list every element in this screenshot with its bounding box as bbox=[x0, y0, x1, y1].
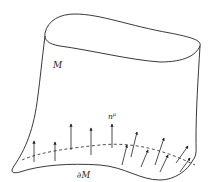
normal-label: nμ bbox=[108, 111, 116, 121]
right-side-outline bbox=[193, 46, 200, 160]
normal-vector-arrow bbox=[160, 155, 168, 172]
manifold-label: M bbox=[52, 60, 63, 70]
normal-vector-arrow bbox=[141, 150, 148, 167]
manifold-diagram: M nμ ∂M bbox=[0, 0, 209, 182]
normal-vector-arrow bbox=[176, 146, 188, 163]
normal-vector-arrow bbox=[122, 145, 127, 165]
normal-label-index: μ bbox=[113, 111, 116, 118]
bottom-boundary-outline bbox=[20, 160, 193, 180]
normal-vector-arrow bbox=[155, 138, 164, 165]
normal-vector-arrow bbox=[131, 132, 137, 157]
boundary-dashed-curve bbox=[22, 144, 195, 165]
top-surface-outline bbox=[45, 14, 200, 62]
boundary-label: ∂M bbox=[77, 170, 90, 180]
left-side-outline bbox=[12, 36, 45, 173]
